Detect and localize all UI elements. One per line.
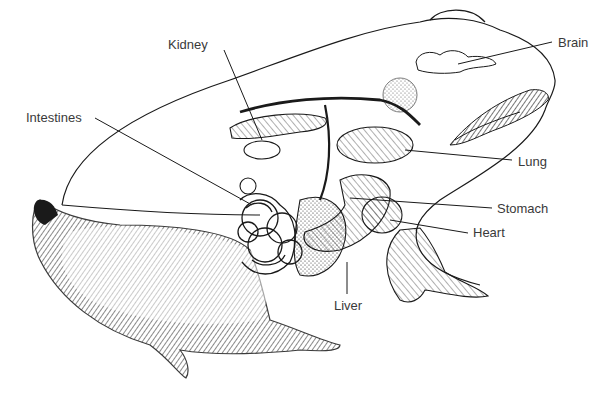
leader-intestines [95,118,252,205]
frog-illustration [0,0,614,398]
leader-lung [405,150,512,160]
label-stomach: Stomach [497,202,548,215]
leader-brain [458,42,552,64]
label-brain: Brain [558,36,588,49]
frog-anatomy-diagram: Kidney Brain Intestines Lung Stomach Hea… [0,0,614,398]
label-kidney: Kidney [168,38,208,51]
label-lung: Lung [518,155,547,168]
label-intestines: Intestines [26,111,82,124]
label-liver: Liver [334,299,362,312]
label-heart: Heart [473,226,505,239]
head [383,51,548,145]
